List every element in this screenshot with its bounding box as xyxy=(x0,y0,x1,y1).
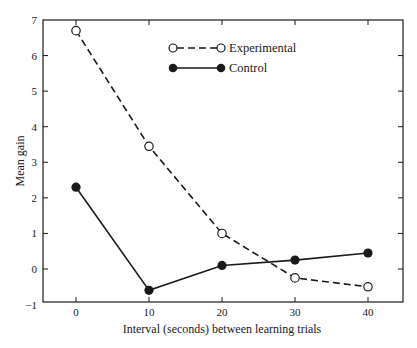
filled-circle-marker xyxy=(363,248,372,257)
open-circle-marker xyxy=(218,229,226,237)
legend-item-control: Control xyxy=(169,61,268,75)
series-control xyxy=(71,183,372,295)
legend-label: Control xyxy=(229,61,268,75)
y-tick-label: 3 xyxy=(32,156,38,168)
filled-circle-marker xyxy=(144,286,153,295)
y-tick-label: 5 xyxy=(32,85,38,97)
filled-circle-icon xyxy=(217,64,226,73)
open-circle-marker xyxy=(291,274,299,282)
line-chart: −101234567010203040 Experimental Control… xyxy=(0,0,417,348)
open-circle-marker xyxy=(364,283,372,291)
x-tick-label: 20 xyxy=(217,306,229,318)
open-circle-marker xyxy=(72,26,80,34)
y-axis-label: Mean gain xyxy=(13,136,27,187)
legend-item-experimental: Experimental xyxy=(169,41,297,55)
open-circle-icon xyxy=(169,44,177,52)
y-tick-label: 1 xyxy=(32,227,38,239)
x-axis-label: Interval (seconds) between learning tria… xyxy=(123,322,322,336)
legend: Experimental Control xyxy=(169,41,297,75)
filled-circle-marker xyxy=(71,183,80,192)
y-tick-label: 2 xyxy=(32,192,38,204)
x-tick-label: 30 xyxy=(290,306,302,318)
y-tick-label: −1 xyxy=(25,299,37,311)
filled-circle-marker xyxy=(217,261,226,270)
open-circle-marker xyxy=(145,142,153,150)
x-tick-label: 0 xyxy=(73,306,79,318)
filled-circle-marker xyxy=(290,256,299,265)
x-tick-label: 40 xyxy=(363,306,375,318)
y-tick-label: 0 xyxy=(32,263,38,275)
y-tick-label: 6 xyxy=(32,50,38,62)
y-tick-label: 4 xyxy=(32,121,38,133)
series-line xyxy=(76,187,368,290)
y-tick-label: 7 xyxy=(32,14,38,26)
open-circle-icon xyxy=(217,44,225,52)
x-tick-label: 10 xyxy=(144,306,156,318)
filled-circle-icon xyxy=(169,64,178,73)
legend-label: Experimental xyxy=(229,41,297,55)
plot-frame xyxy=(43,20,403,302)
axis-ticks xyxy=(43,20,403,302)
